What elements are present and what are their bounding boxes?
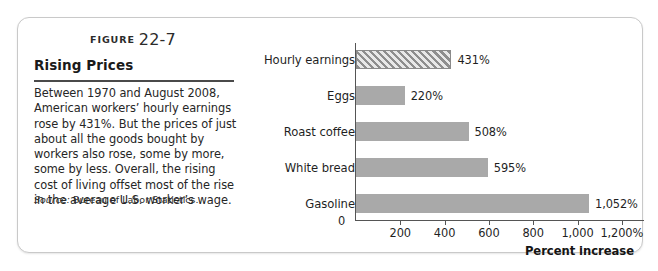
- chart-x-axis-title: Percent increase: [525, 244, 634, 258]
- bar-category-label: Roast coffee: [284, 125, 355, 139]
- bar-category-label: Eggs: [327, 89, 355, 103]
- bar-category-label: Gasoline: [305, 197, 355, 211]
- x-axis-tick-label: 1,200%: [600, 226, 643, 240]
- source-text: Bureau of Labor Statistics.: [70, 194, 198, 205]
- x-axis-tick: [445, 220, 446, 225]
- bar-hourly-earnings: [356, 50, 451, 69]
- chart-x-axis: [355, 220, 644, 221]
- bar-value-label: 595%: [494, 161, 526, 175]
- x-axis-tick-label: 600: [478, 226, 499, 240]
- x-axis-tick: [578, 220, 579, 225]
- bar-chart: Hourly earnings431%Eggs220%Roast coffee5…: [240, 24, 638, 248]
- bar-eggs: [356, 86, 405, 105]
- figure-number: 22-7: [139, 30, 176, 49]
- figure-label: FIGURE22-7: [27, 30, 239, 49]
- x-axis-tick-label: 200: [390, 226, 411, 240]
- bar-white-bread: [356, 158, 488, 177]
- x-axis-tick-label: 1,000: [561, 226, 593, 240]
- source-word: Source:: [34, 194, 70, 205]
- x-axis-tick-label: 800: [522, 226, 543, 240]
- bar-category-label: White bread: [285, 161, 355, 175]
- x-axis-tick-label: 0: [338, 214, 345, 228]
- x-axis-tick: [533, 220, 534, 225]
- figure-text-panel: FIGURE22-7 Rising Prices Between 1970 an…: [27, 24, 239, 246]
- x-axis-tick: [622, 220, 623, 225]
- bar-category-label: Hourly earnings: [264, 53, 355, 67]
- figure-description: Between 1970 and August 2008, American w…: [34, 86, 237, 208]
- bar-gasoline: [356, 194, 589, 213]
- x-axis-tick: [489, 220, 490, 225]
- page-title: Rising Prices: [34, 57, 133, 73]
- figure-source: Source: Bureau of Labor Statistics.: [34, 194, 237, 206]
- title-divider: [34, 80, 234, 82]
- bar-value-label: 1,052%: [595, 197, 638, 211]
- bar-value-label: 220%: [411, 89, 443, 103]
- x-axis-tick-label: 400: [434, 226, 455, 240]
- bar-roast-coffee: [356, 122, 469, 141]
- x-axis-tick: [400, 220, 401, 225]
- figure-card: FIGURE22-7 Rising Prices Between 1970 an…: [17, 17, 643, 253]
- bar-value-label: 508%: [475, 125, 507, 139]
- figure-label-word: FIGURE: [90, 34, 135, 45]
- bar-value-label: 431%: [457, 53, 489, 67]
